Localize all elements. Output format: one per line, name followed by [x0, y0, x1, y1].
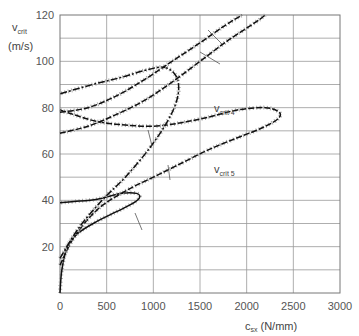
x-tick: 0	[57, 300, 63, 312]
y-axis-unit: (m/s)	[8, 40, 33, 52]
curve-hatch	[60, 67, 179, 258]
x-tick: 500	[97, 300, 115, 312]
y-tick: 120	[36, 9, 54, 21]
y-tick: 20	[42, 241, 54, 253]
series-label: vcrit 4	[214, 102, 235, 116]
y-tick: 100	[36, 55, 54, 67]
x-tick: 1500	[188, 300, 212, 312]
label-leader	[148, 130, 152, 146]
curve-3	[60, 67, 179, 258]
y-axis-label: vcrit	[12, 21, 27, 35]
y-tick: 60	[42, 148, 54, 160]
x-axis-label: csx(N/mm)	[245, 320, 297, 333]
y-tick: 80	[42, 102, 54, 114]
y-tick: 40	[42, 194, 54, 206]
x-tick: 3000	[328, 300, 352, 312]
x-tick-labels: 050010001500200025003000	[57, 300, 352, 312]
x-tick: 2000	[234, 300, 258, 312]
label-leader	[135, 213, 142, 230]
x-tick: 1000	[141, 300, 165, 312]
chart: 050010001500200025003000 20406080100120 …	[0, 0, 359, 336]
y-tick-labels: 20406080100120	[36, 9, 54, 253]
x-tick: 2500	[281, 300, 305, 312]
series-label: vcrit 5	[214, 163, 235, 177]
